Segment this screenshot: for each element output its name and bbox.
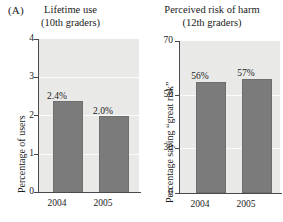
chart-perceived-risk: Perceived risk of harm (12th graders) Pe…	[141, 0, 283, 222]
y-tick-label-2: 2	[12, 110, 34, 120]
y-tick-label-4: 4	[12, 33, 34, 43]
x-tick-label-2005: 2005	[226, 199, 266, 209]
bar-2004[interactable]	[196, 82, 226, 193]
chart-title-line2: (10th graders)	[0, 16, 141, 29]
y-tick-label-3: 3	[12, 71, 34, 81]
chart-title-lifetime-use: Lifetime use (10th graders)	[0, 3, 141, 29]
plot-area-perceived-risk	[179, 41, 280, 193]
y-tick-label-0: 0	[12, 186, 34, 196]
bar-value-2004: 2.4%	[42, 91, 72, 101]
y-tick-label-30: 30	[151, 142, 173, 152]
bar-value-2004: 56%	[185, 71, 215, 81]
chart-title-line2: (12th graders)	[141, 16, 283, 29]
chart-title-line1: Lifetime use	[44, 4, 97, 15]
y-tick-label-50: 50	[151, 89, 173, 99]
y-tick-label-0: 0	[151, 187, 173, 197]
bar-value-2005: 57%	[231, 68, 261, 78]
x-tick-label-2004: 2004	[180, 199, 220, 209]
x-axis-line	[179, 193, 282, 194]
x-tick-label-2004: 2004	[37, 198, 77, 208]
chart-lifetime-use: Lifetime use (10th graders) Percentage o…	[0, 0, 141, 222]
bar-2005[interactable]	[242, 79, 272, 193]
bar-2004[interactable]	[53, 101, 83, 193]
chart-title-line1: Perceived risk of harm	[164, 4, 259, 15]
bar-2005[interactable]	[99, 116, 129, 193]
figure-panel-a: (A) Lifetime use (10th graders) Percenta…	[0, 0, 283, 222]
x-tick-label-2005: 2005	[83, 198, 123, 208]
y-tick-label-1: 1	[12, 148, 34, 158]
bar-value-2005: 2.0%	[88, 106, 118, 116]
x-axis-line	[38, 192, 141, 193]
gridline-3	[39, 77, 139, 78]
chart-title-perceived-risk: Perceived risk of harm (12th graders)	[141, 3, 283, 29]
plot-area-lifetime-use	[38, 39, 139, 193]
y-tick-label-70: 70	[151, 35, 173, 45]
